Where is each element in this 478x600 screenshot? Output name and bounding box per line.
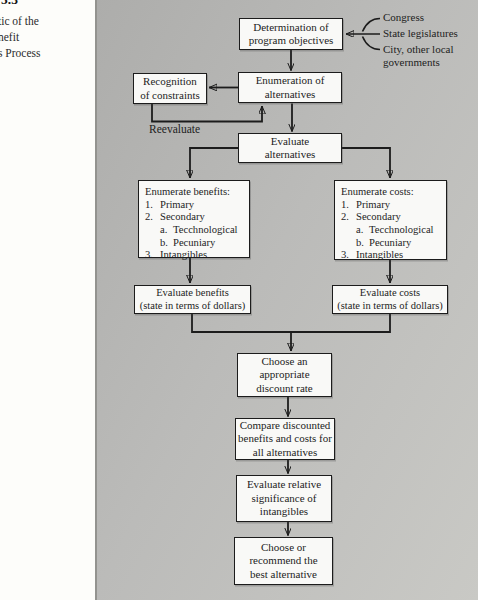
list-item: 2. Secondary bbox=[145, 211, 246, 224]
enumerate-costs-title: Enumerate costs: bbox=[341, 185, 443, 199]
list-item: a. Tecchnological bbox=[356, 224, 443, 237]
box-enumeration: Enumeration of alternatives bbox=[238, 72, 342, 103]
source-item-congress: Congress bbox=[383, 11, 424, 24]
merge-line-benefits-costs bbox=[192, 314, 390, 332]
arrow-reevaluate-loop bbox=[152, 104, 262, 122]
list-item: 1. Primary bbox=[341, 199, 443, 212]
box-evaluate-costs: Evaluate costs (state in terms of dollar… bbox=[332, 285, 448, 314]
enumerate-benefits-title: Enumerate benefits: bbox=[145, 185, 246, 199]
box-enumerate-costs: Enumerate costs: 1. Primary 2. Secondary… bbox=[334, 180, 447, 260]
list-item: 3. Intangibles bbox=[145, 249, 246, 262]
list-item: 2. Secondary bbox=[341, 211, 443, 224]
book-page: 5.3 tic of the nefit s Process bbox=[0, 0, 478, 600]
box-compare-discounted: Compare discounted benefits and costs fo… bbox=[235, 418, 335, 460]
arrow-evaluate-to-enumerate-benefits bbox=[190, 148, 238, 178]
list-item: a. Tecchnological bbox=[160, 224, 246, 237]
list-item: b. Pecuniary bbox=[356, 237, 443, 250]
source-item-city-governments: City, other local governments bbox=[383, 43, 453, 69]
box-choose-best: Choose or recommend the best alternative bbox=[234, 537, 333, 585]
bracket-bottom-tick bbox=[363, 37, 381, 50]
box-determination: Determination of program objectives bbox=[239, 18, 343, 50]
box-enumerate-benefits: Enumerate benefits: 1. Primary 2. Second… bbox=[138, 180, 250, 258]
arrow-evaluate-to-enumerate-costs bbox=[342, 148, 390, 178]
reevaluate-label: Reevaluate bbox=[149, 123, 200, 136]
list-item: 3. Intangibles bbox=[341, 249, 443, 262]
box-recognition: Recognition of constraints bbox=[133, 73, 207, 104]
bracket-top-tick bbox=[363, 19, 381, 32]
box-evaluate-intangibles: Evaluate relative significance of intang… bbox=[236, 475, 332, 522]
box-evaluate-alternatives: Evaluate alternatives bbox=[238, 133, 342, 163]
box-evaluate-benefits: Evaluate benefits (state in terms of dol… bbox=[134, 285, 251, 314]
list-item: 1. Primary bbox=[145, 199, 246, 212]
box-choose-discount-rate: Choose an appropriate discount rate bbox=[237, 353, 332, 397]
list-item: b. Pecuniary bbox=[160, 237, 246, 250]
source-item-state-legislatures: State legislatures bbox=[383, 27, 458, 40]
